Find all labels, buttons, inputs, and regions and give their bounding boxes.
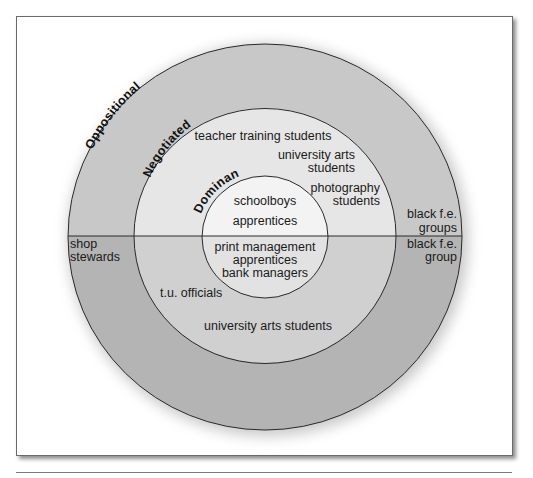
- black-fe-groups-text-1: black f.e.: [407, 207, 457, 221]
- print-management-text: print management: [215, 240, 316, 254]
- reading-positions-diagram: Oppositional Negotiated Dominant schoolb…: [0, 0, 533, 478]
- university-arts-text-2: students: [308, 161, 355, 175]
- shop-stewards-text-1: shop: [70, 237, 97, 251]
- schoolboys-text: schoolboys: [234, 194, 297, 208]
- tu-officials-text: t.u. officials: [160, 286, 222, 300]
- black-fe-groups-text-2: groups: [419, 221, 457, 235]
- teacher-training-text: teacher training students: [195, 129, 332, 143]
- university-arts-text-1: university arts: [278, 148, 355, 162]
- photography-text-2: students: [333, 194, 380, 208]
- black-fe-group-text-2: group: [425, 250, 457, 264]
- apprentices-text: apprentices: [233, 214, 298, 228]
- bank-managers-text: bank managers: [222, 266, 308, 280]
- black-fe-group-text-1: black f.e.: [407, 237, 457, 251]
- shop-stewards-text-2: stewards: [70, 250, 120, 264]
- apprentices-bottom-text: apprentices: [233, 253, 298, 267]
- photography-text-1: photography: [310, 181, 380, 195]
- university-arts-students-text: university arts students: [204, 319, 332, 333]
